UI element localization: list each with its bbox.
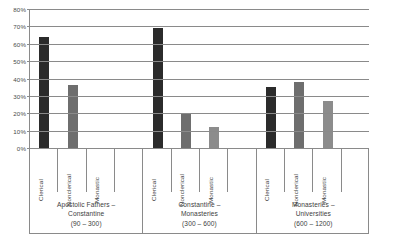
group-label-cell: Apostolic Fathers –Constantine(90 – 300) [30, 192, 143, 234]
y-tick-label: 50% [0, 58, 26, 65]
group-label-line: (300 – 600) [182, 219, 217, 229]
y-tick-label: 20% [0, 110, 26, 117]
y-tick-label: 30% [0, 92, 26, 99]
category-cell-monastic: Monastic [313, 148, 341, 192]
bar [323, 101, 333, 148]
category-cell-spacer [342, 148, 370, 192]
plot-area [29, 9, 369, 148]
bar [294, 82, 304, 148]
gridline [30, 96, 369, 97]
gridline [30, 9, 369, 10]
group-label-cell: Monasteries –Universities(600 – 1200) [257, 192, 370, 234]
gridline [30, 44, 369, 45]
group-label-line: Apostolic Fathers – [57, 200, 115, 210]
gridline [30, 79, 369, 80]
y-tickmark [27, 79, 30, 80]
group-label-line: Monasteries – [292, 200, 335, 210]
category-cell-monastic: Monastic [200, 148, 228, 192]
group-label-line: (90 – 300) [71, 219, 102, 229]
gridline [30, 61, 369, 62]
category-label-band: ClericalNonclericalMonasticClericalNoncl… [29, 148, 369, 192]
gridline [30, 113, 369, 114]
y-tickmark [27, 44, 30, 45]
gridline [30, 26, 369, 27]
group-label-line: Constantine [68, 209, 104, 219]
gridline [30, 131, 369, 132]
category-cell-clerical: Clerical [30, 148, 58, 192]
y-tick-label: 0% [0, 145, 26, 152]
y-tick-label: 10% [0, 127, 26, 134]
group-label-line: Universities [296, 209, 331, 219]
category-cell-clerical: Clerical [143, 148, 171, 192]
category-cell-monastic: Monastic [87, 148, 115, 192]
group-label-line: Constantine – [178, 200, 220, 210]
y-tick-label: 60% [0, 40, 26, 47]
y-tick-label: 80% [0, 6, 26, 13]
y-tickmark [27, 61, 30, 62]
bar [68, 85, 78, 148]
bar-chart: 80%70%60%50%40%30%20%10%0% ClericalNoncl… [0, 0, 399, 240]
group-label-line: Monasteries [181, 209, 218, 219]
category-cell-nonclerical: Nonclerical [172, 148, 200, 192]
category-cell-clerical: Clerical [257, 148, 285, 192]
y-tick-label: 70% [0, 23, 26, 30]
y-tickmark [27, 113, 30, 114]
category-cell-spacer [228, 148, 256, 192]
y-tick-label: 40% [0, 75, 26, 82]
group-label-cell: Constantine –Monasteries(300 – 600) [143, 192, 256, 234]
category-cell-spacer [115, 148, 143, 192]
category-cell-nonclerical: Nonclerical [285, 148, 313, 192]
group-label-line: (600 – 1200) [294, 219, 333, 229]
y-tickmark [27, 131, 30, 132]
group-label-band: Apostolic Fathers –Constantine(90 – 300)… [29, 192, 369, 234]
category-cell-nonclerical: Nonclerical [58, 148, 86, 192]
y-tickmark [27, 9, 30, 10]
y-tickmark [27, 96, 30, 97]
y-tickmark [27, 26, 30, 27]
y-axis: 80%70%60%50%40%30%20%10%0% [0, 0, 26, 240]
